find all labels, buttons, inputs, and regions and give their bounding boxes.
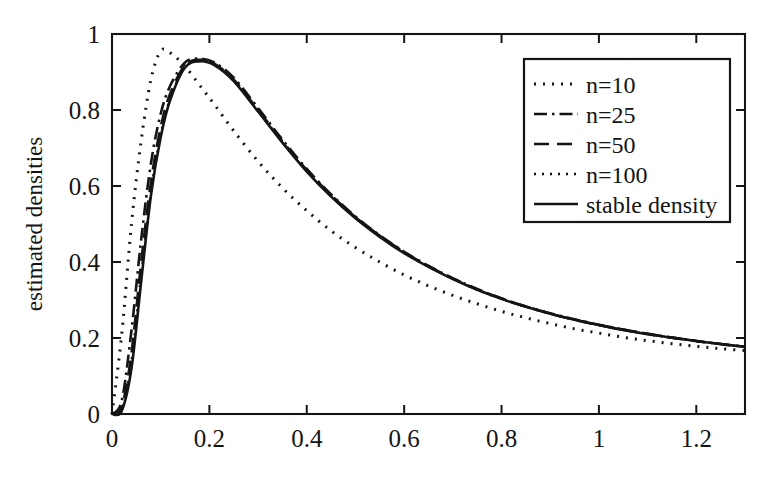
density-plot-figure: 00.20.40.60.811.2 00.20.40.60.81 estimat… xyxy=(0,0,779,480)
y-axis-title: estimated densities xyxy=(22,137,47,311)
y-tick-label: 0.8 xyxy=(69,97,100,124)
x-axis-tick-labels: 00.20.40.60.811.2 xyxy=(106,425,712,452)
legend-label-n-25: n=25 xyxy=(586,102,636,128)
x-tick-label: 0.6 xyxy=(389,425,420,452)
x-tick-label: 0 xyxy=(106,425,119,452)
x-tick-label: 0.4 xyxy=(291,425,323,452)
y-tick-label: 0.2 xyxy=(69,325,100,352)
legend-label-n-100: n=100 xyxy=(586,162,648,188)
legend: n=10n=25n=50n=100stable density xyxy=(524,59,730,222)
y-tick-label: 0 xyxy=(88,401,101,428)
x-tick-label: 0.8 xyxy=(486,425,517,452)
x-tick-label: 1 xyxy=(593,425,606,452)
legend-label-n-50: n=50 xyxy=(586,132,636,158)
legend-label-n-10: n=10 xyxy=(586,72,636,98)
legend-label-stable-density: stable density xyxy=(586,192,717,218)
x-tick-label: 0.2 xyxy=(194,425,225,452)
chart-page: 00.20.40.60.811.2 00.20.40.60.81 estimat… xyxy=(0,0,779,480)
x-tick-label: 1.2 xyxy=(681,425,712,452)
y-axis-tick-labels: 00.20.40.60.81 xyxy=(69,21,101,428)
y-tick-label: 0.4 xyxy=(69,249,101,276)
y-tick-label: 0.6 xyxy=(69,173,100,200)
y-tick-label: 1 xyxy=(88,21,101,48)
